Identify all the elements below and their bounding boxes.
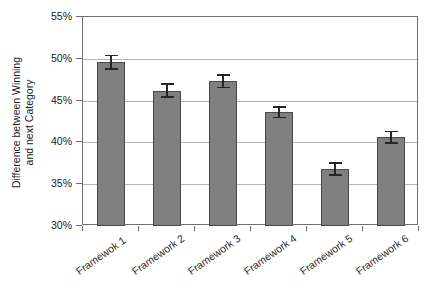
x-axis-category-label: Framework 5 xyxy=(298,233,354,277)
error-bar-cap-lower xyxy=(161,96,174,98)
error-bar-cap-lower xyxy=(329,174,342,176)
error-bar-cap-upper xyxy=(329,162,342,164)
error-bar-cap-upper xyxy=(385,131,398,133)
y-axis-tick-label: 40% xyxy=(28,136,72,147)
y-axis-tick-label: 45% xyxy=(28,95,72,106)
error-bar xyxy=(97,55,125,70)
error-bar-cap-upper xyxy=(161,83,174,85)
x-axis-tick xyxy=(418,226,419,231)
x-axis-tick xyxy=(194,226,195,231)
x-axis-tick xyxy=(362,226,363,231)
error-bar-cap-lower xyxy=(105,68,118,70)
gridline xyxy=(83,101,417,102)
y-axis-tick-label: 35% xyxy=(28,178,72,189)
x-axis-tick xyxy=(82,226,83,231)
gridline xyxy=(83,142,417,143)
error-bar xyxy=(265,106,293,118)
plot-area xyxy=(82,16,418,225)
error-bar xyxy=(377,131,405,144)
bar xyxy=(153,91,181,226)
bar xyxy=(209,81,237,226)
bar xyxy=(97,62,125,226)
error-bar-cap-lower xyxy=(273,117,286,119)
bar xyxy=(265,112,293,226)
error-bar-cap-lower xyxy=(385,142,398,144)
x-axis-tick xyxy=(138,226,139,231)
x-axis-tick xyxy=(306,226,307,231)
bar-chart: Difference between Winning and next Cate… xyxy=(0,0,427,298)
x-axis-tick xyxy=(250,226,251,231)
error-bar-cap-upper xyxy=(105,55,118,57)
error-bar xyxy=(209,74,237,88)
error-bar-cap-upper xyxy=(217,74,230,76)
y-axis-tick-label: 50% xyxy=(28,53,72,64)
y-axis-tick-label: 55% xyxy=(28,11,72,22)
x-axis-category-label: Framework 4 xyxy=(242,233,298,277)
x-axis-category-label: Framewok 1 xyxy=(74,235,128,277)
y-axis-tick-label: 30% xyxy=(28,220,72,231)
error-bar-cap-lower xyxy=(217,87,230,89)
gridline xyxy=(83,184,417,185)
x-axis-category-label: Framework 2 xyxy=(130,233,186,277)
x-axis-category-label: Framework 6 xyxy=(354,233,410,277)
gridline xyxy=(83,59,417,60)
y-axis-title-line-1: Difference between Winning xyxy=(10,23,23,223)
error-bar xyxy=(321,162,349,175)
bar xyxy=(377,137,405,226)
bar xyxy=(321,169,349,226)
error-bar-cap-upper xyxy=(273,106,286,108)
error-bar xyxy=(153,83,181,98)
x-axis-category-label: Framework 3 xyxy=(186,233,242,277)
